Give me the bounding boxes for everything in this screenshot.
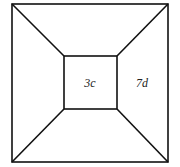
label-inner: 3c xyxy=(83,76,96,90)
edge-top-left xyxy=(12,4,64,56)
frustum-diagram: 3c 7d xyxy=(0,0,180,167)
edge-bottom-left xyxy=(12,109,64,162)
edge-top-right xyxy=(117,4,168,56)
edge-bottom-right xyxy=(117,109,168,162)
label-right-face: 7d xyxy=(136,76,149,90)
